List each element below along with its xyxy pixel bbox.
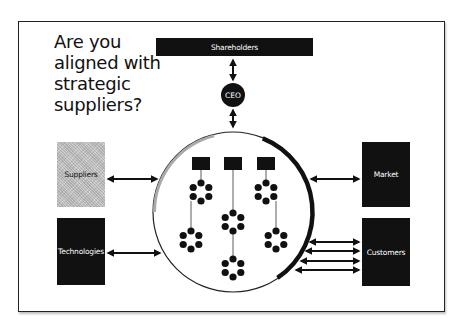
team-cluster	[222, 209, 245, 234]
team-member-dot	[190, 184, 197, 191]
team-cluster	[190, 179, 213, 204]
team-member-dot	[255, 193, 262, 200]
team-member-dot	[197, 179, 204, 186]
ceo-label: CEO	[225, 91, 241, 100]
diagram-canvas: CEO	[0, 0, 464, 331]
team-member-dot	[222, 269, 229, 276]
team-member-dot	[237, 260, 244, 267]
division-head	[224, 157, 242, 170]
team-member-dot	[222, 214, 229, 221]
team-member-dot	[262, 179, 269, 186]
team-member-dot	[272, 245, 279, 252]
team-member-dot	[237, 214, 244, 221]
team-member-dot	[180, 241, 187, 248]
team-member-dot	[205, 184, 212, 191]
team-member-dot	[187, 245, 194, 252]
suppliers-arc	[155, 136, 215, 212]
team-member-dot	[187, 227, 194, 234]
team-cluster	[222, 255, 245, 280]
team-member-dot	[229, 209, 236, 216]
team-cluster	[255, 179, 278, 204]
team-member-dot	[265, 232, 272, 239]
team-member-dot	[265, 241, 272, 248]
team-member-dot	[195, 232, 202, 239]
org-chart	[180, 157, 288, 281]
team-member-dot	[280, 241, 287, 248]
team-member-dot	[222, 223, 229, 230]
division-head	[257, 157, 275, 170]
team-member-dot	[229, 273, 236, 280]
team-member-dot	[270, 184, 277, 191]
ceo-node: CEO	[221, 83, 245, 107]
team-member-dot	[205, 193, 212, 200]
team-member-dot	[280, 232, 287, 239]
team-member-dot	[237, 223, 244, 230]
team-cluster	[180, 227, 203, 252]
team-member-dot	[197, 197, 204, 204]
team-member-dot	[255, 184, 262, 191]
team-member-dot	[237, 269, 244, 276]
team-member-dot	[190, 193, 197, 200]
team-member-dot	[229, 255, 236, 262]
team-member-dot	[222, 260, 229, 267]
team-member-dot	[272, 227, 279, 234]
team-member-dot	[180, 232, 187, 239]
team-member-dot	[270, 193, 277, 200]
team-member-dot	[229, 227, 236, 234]
team-member-dot	[262, 197, 269, 204]
team-cluster	[265, 227, 288, 252]
division-head	[192, 157, 210, 170]
team-member-dot	[195, 241, 202, 248]
